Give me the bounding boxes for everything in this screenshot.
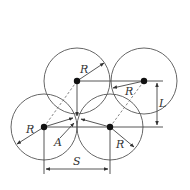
center-dot-top-right (141, 78, 147, 84)
arrow-bottom-left-to-a (44, 118, 73, 127)
label-r-top-right: R (124, 85, 133, 98)
label-r-bottom-left: R (25, 123, 34, 136)
label-r-top-left: R (79, 63, 88, 76)
label-point-a: A (53, 136, 62, 149)
label-offset-l: L (158, 97, 166, 110)
circle-spacing-diagram: R R R R A S L (0, 0, 190, 190)
label-r-bottom-right: R (115, 138, 124, 151)
center-dot-bottom-right (107, 124, 113, 130)
dashed-diagonal-left (44, 81, 77, 127)
arrow-bottom-right-to-a (81, 119, 110, 127)
arrow-label-to-a (60, 123, 74, 138)
center-dot-top-left (74, 78, 80, 84)
label-spacing-s: S (73, 155, 81, 168)
center-dot-bottom-left (41, 124, 47, 130)
